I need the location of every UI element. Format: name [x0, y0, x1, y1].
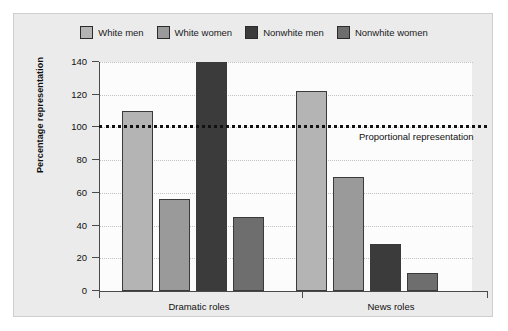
legend-item-white-women[interactable]: White women [157, 26, 233, 39]
y-axis-tick-label: 80 [14, 155, 87, 165]
legend-swatch-nonwhite-men [245, 26, 258, 39]
y-axis-tick [92, 225, 99, 226]
y-axis-tick [92, 257, 99, 258]
chart-legend: White men White women Nonwhite men Nonwh… [14, 26, 494, 39]
bar-white-women-dramatic-roles[interactable] [159, 199, 190, 291]
legend-item-nonwhite-men[interactable]: Nonwhite men [245, 26, 324, 39]
bar-white-men-dramatic-roles[interactable] [122, 111, 153, 291]
y-axis-tick-label: 120 [14, 90, 87, 100]
x-axis-tick [302, 291, 303, 298]
legend-label-nonwhite-men: Nonwhite men [263, 28, 324, 38]
legend-label-white-women: White women [175, 28, 233, 38]
bar-nonwhite-men-dramatic-roles[interactable] [196, 62, 227, 291]
legend-item-nonwhite-women[interactable]: Nonwhite women [337, 26, 428, 39]
bar-nonwhite-women-dramatic-roles[interactable] [233, 217, 264, 291]
gridline [100, 226, 473, 227]
y-axis-tick-label: 0 [14, 286, 87, 296]
legend-label-nonwhite-women: Nonwhite women [355, 28, 428, 38]
legend-label-white-men: White men [98, 28, 143, 38]
x-axis-tick [487, 291, 488, 298]
gridline [100, 258, 473, 259]
gridline [100, 160, 473, 161]
legend-item-white-men[interactable]: White men [80, 26, 143, 39]
y-axis-tick-label: 100 [14, 122, 87, 132]
y-axis-tick-label: 60 [14, 188, 87, 198]
x-axis-category-label: News roles [331, 301, 451, 312]
x-axis-line [99, 291, 487, 292]
gridline [100, 193, 473, 194]
bar-white-men-news-roles[interactable] [296, 91, 327, 291]
proportional-representation-label: Proportional representation [359, 131, 474, 142]
legend-swatch-nonwhite-women [337, 26, 350, 39]
y-axis-tick [92, 61, 99, 62]
x-axis-tick [99, 291, 100, 298]
y-axis-tick [92, 126, 99, 127]
plot-area [99, 62, 472, 291]
proportional-representation-line [99, 125, 487, 128]
gridline [100, 95, 473, 96]
legend-swatch-white-men [80, 26, 93, 39]
y-axis-tick-label: 140 [14, 57, 87, 67]
y-axis-tick-label: 40 [14, 221, 87, 231]
gridline [100, 62, 473, 63]
y-axis-tick [92, 94, 99, 95]
y-axis-tick [92, 159, 99, 160]
bar-white-women-news-roles[interactable] [333, 177, 364, 292]
chart-figure: White men White women Nonwhite men Nonwh… [13, 13, 493, 317]
y-axis-tick [92, 290, 99, 291]
y-axis-tick [92, 192, 99, 193]
legend-swatch-white-women [157, 26, 170, 39]
x-axis-category-label: Dramatic roles [139, 301, 259, 312]
y-axis-tick-label: 20 [14, 253, 87, 263]
bar-nonwhite-men-news-roles[interactable] [370, 244, 401, 291]
bar-nonwhite-women-news-roles[interactable] [407, 273, 438, 291]
